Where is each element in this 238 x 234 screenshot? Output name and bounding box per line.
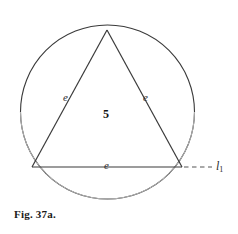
figure-37a: e e e 5 l1 Fig. 37a. [0, 0, 238, 234]
label-line-l1: l1 [216, 160, 223, 174]
label-bottom-side-e: e [104, 160, 109, 171]
label-left-side-e: e [63, 92, 68, 103]
label-center-number: 5 [103, 108, 109, 120]
label-line-subscript: 1 [219, 165, 223, 174]
label-right-side-e: e [143, 92, 148, 103]
geometry-drawing [0, 0, 238, 234]
triangle-left-side [32, 30, 107, 167]
figure-caption: Fig. 37a. [14, 209, 56, 220]
circle-lower-arc-highlight [21, 112, 195, 199]
